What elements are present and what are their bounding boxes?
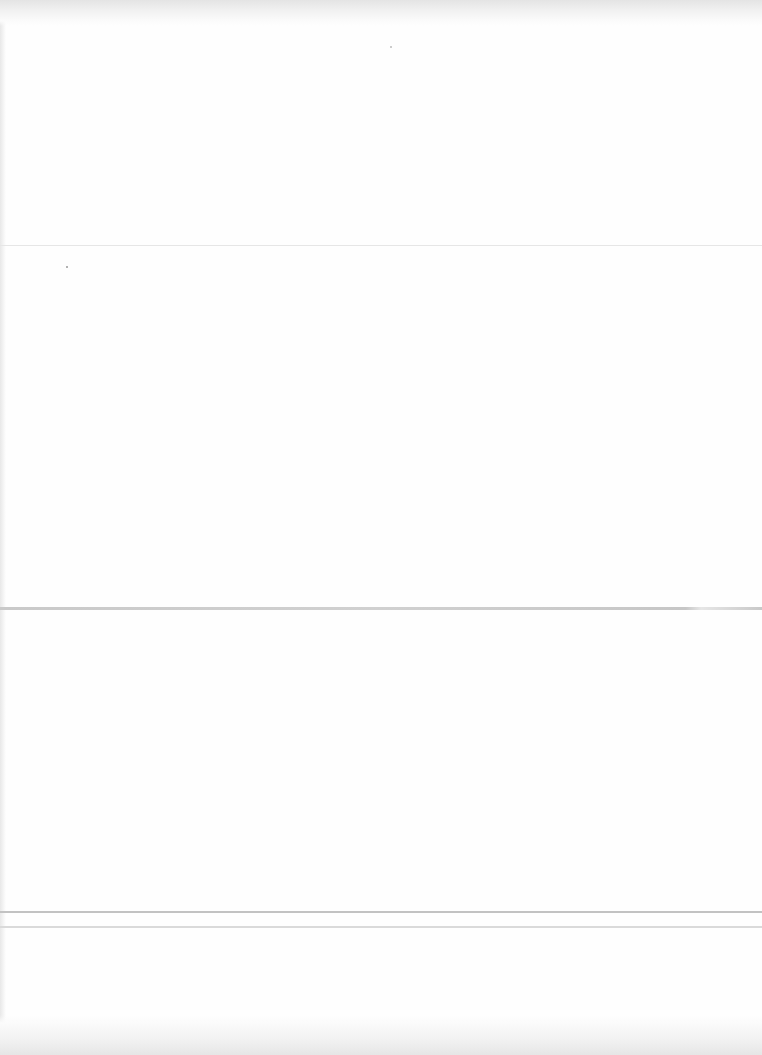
divider-line bbox=[0, 245, 762, 246]
top-show-through-band bbox=[0, 0, 762, 26]
bottom-show-through-band bbox=[0, 1015, 762, 1055]
scan-edge-shadow bbox=[0, 0, 6, 1055]
scan-speck bbox=[66, 266, 68, 268]
divider-line bbox=[0, 911, 762, 913]
divider-line bbox=[0, 607, 762, 610]
divider-line bbox=[0, 926, 762, 928]
scan-speck bbox=[390, 46, 392, 48]
scanned-page bbox=[0, 0, 762, 1055]
